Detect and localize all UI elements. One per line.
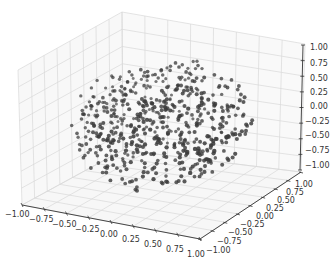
scatter-point bbox=[154, 171, 158, 175]
scatter-point bbox=[177, 65, 181, 69]
scatter-point bbox=[233, 132, 237, 136]
scatter-point bbox=[115, 166, 119, 170]
scatter-point bbox=[111, 76, 115, 80]
scatter-point bbox=[123, 182, 127, 186]
scatter-point bbox=[143, 161, 147, 165]
x-tick-label: 0.50 bbox=[144, 240, 162, 249]
scatter-point bbox=[196, 109, 200, 113]
scatter-point bbox=[132, 151, 136, 155]
scatter-point bbox=[172, 145, 176, 149]
scatter-point bbox=[181, 149, 185, 153]
scatter-point bbox=[233, 152, 237, 156]
scatter-point bbox=[164, 155, 168, 159]
scatter-point bbox=[146, 79, 149, 82]
scatter-point bbox=[114, 131, 118, 135]
scatter-point bbox=[117, 120, 120, 123]
scatter-point bbox=[220, 77, 224, 81]
scatter-point bbox=[177, 127, 180, 130]
scatter-point bbox=[173, 158, 177, 162]
scatter-point bbox=[240, 129, 244, 133]
scatter-point bbox=[186, 67, 189, 70]
scatter-point bbox=[84, 142, 88, 146]
scatter-point bbox=[200, 79, 204, 83]
scatter-point bbox=[109, 149, 112, 152]
scatter-point bbox=[236, 106, 240, 110]
y-tick-label: −0.25 bbox=[240, 220, 265, 229]
scatter-point bbox=[113, 89, 117, 93]
scatter-point bbox=[70, 124, 73, 127]
scatter-point bbox=[181, 143, 185, 147]
scatter-point bbox=[200, 91, 204, 95]
scatter-point bbox=[196, 64, 200, 68]
scatter-point bbox=[224, 121, 228, 125]
scatter-point bbox=[182, 167, 186, 171]
scatter-point bbox=[202, 75, 206, 79]
y-tick-label: 0.00 bbox=[256, 212, 274, 221]
scatter-point bbox=[118, 78, 121, 81]
scatter-point bbox=[155, 126, 159, 130]
scatter-point bbox=[233, 127, 237, 131]
scatter-point bbox=[165, 168, 169, 172]
scatter-point bbox=[120, 123, 123, 126]
scatter-point bbox=[89, 104, 93, 108]
scatter-point bbox=[81, 112, 85, 116]
scatter-point bbox=[144, 95, 147, 98]
scatter-point bbox=[198, 140, 202, 144]
scatter-point bbox=[193, 130, 197, 134]
scatter-point bbox=[79, 94, 82, 97]
scatter-point bbox=[237, 84, 241, 88]
scatter-point bbox=[244, 123, 248, 127]
scatter-point bbox=[140, 78, 143, 81]
scatter-point bbox=[196, 88, 199, 91]
scatter-point bbox=[104, 159, 108, 163]
y-tick-label: 0.75 bbox=[286, 188, 304, 197]
scatter-point bbox=[141, 175, 145, 179]
3d-scatter-plot: −1.00 −0.75 −0.50 −0.25 0.00 0.25 0.50 0… bbox=[0, 0, 332, 265]
scatter-point bbox=[129, 88, 133, 92]
scatter-point bbox=[152, 136, 156, 140]
x-tick-label: −0.75 bbox=[29, 215, 54, 224]
scatter-point bbox=[169, 97, 172, 100]
scatter-point bbox=[221, 109, 225, 113]
scatter-point bbox=[195, 76, 199, 80]
scatter-point bbox=[121, 157, 124, 160]
scatter-point bbox=[142, 105, 146, 109]
x-tick-label: 0.75 bbox=[166, 245, 184, 254]
scatter-point bbox=[226, 86, 230, 90]
scatter-point bbox=[87, 113, 90, 116]
scatter-point bbox=[162, 137, 165, 140]
scatter-point bbox=[155, 162, 159, 166]
scatter-point bbox=[123, 92, 127, 96]
scatter-point bbox=[75, 132, 79, 136]
y-tick-label: 1.00 bbox=[295, 180, 313, 189]
scatter-point bbox=[101, 171, 105, 175]
scatter-point bbox=[126, 153, 129, 156]
scatter-point bbox=[164, 174, 168, 178]
scatter-point bbox=[168, 108, 172, 112]
scatter-point bbox=[210, 116, 214, 120]
scatter-point bbox=[96, 102, 100, 106]
scatter-point bbox=[234, 114, 238, 118]
scatter-point bbox=[241, 100, 245, 104]
scatter-point bbox=[119, 133, 123, 137]
scatter-point bbox=[89, 137, 93, 141]
scatter-point bbox=[180, 75, 184, 79]
scatter-point bbox=[220, 93, 223, 96]
scatter-point bbox=[84, 105, 87, 108]
y-tick-label: −0.50 bbox=[228, 228, 253, 237]
scatter-point bbox=[86, 121, 89, 124]
scatter-point bbox=[141, 152, 145, 156]
scatter-point bbox=[184, 70, 188, 74]
z-tick-label: −0.50 bbox=[305, 131, 330, 140]
scatter-point bbox=[90, 86, 93, 89]
scatter-point bbox=[97, 134, 101, 138]
scatter-point bbox=[129, 160, 133, 164]
scatter-point bbox=[190, 113, 194, 117]
scatter-point bbox=[92, 124, 96, 128]
scatter-point bbox=[226, 109, 230, 113]
scatter-point bbox=[226, 158, 230, 162]
scatter-point bbox=[183, 78, 186, 81]
scatter-point bbox=[84, 135, 88, 139]
scatter-point bbox=[132, 85, 135, 88]
scatter-point bbox=[206, 111, 210, 115]
